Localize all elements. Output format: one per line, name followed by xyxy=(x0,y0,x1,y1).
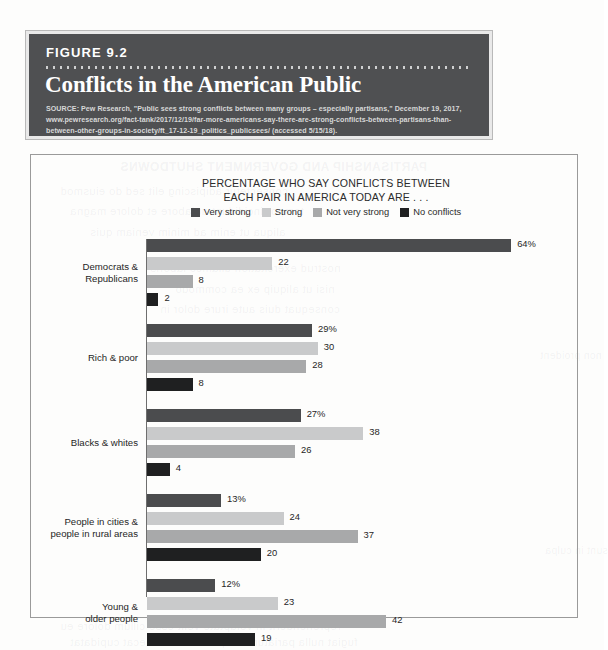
category-label-2: Blacks & whites xyxy=(8,437,138,449)
bar-value-label: 29% xyxy=(318,323,337,334)
bar[interactable] xyxy=(147,597,278,610)
figure-title: Conflicts in the American Public xyxy=(45,72,361,98)
category-label-4: Young &older people xyxy=(8,601,138,624)
bar-row[interactable]: 28 xyxy=(146,360,566,373)
bar[interactable] xyxy=(147,427,363,440)
bar-row[interactable]: 37 xyxy=(146,530,566,543)
bar-row[interactable]: 24 xyxy=(146,512,566,525)
legend-label: No conflicts xyxy=(413,207,461,217)
bar-row[interactable]: 8 xyxy=(146,378,566,391)
category-label-line: Democrats & xyxy=(8,261,138,273)
bar-row[interactable]: 2 xyxy=(146,293,566,306)
bar-group: 12%234219 xyxy=(146,579,566,650)
bar-group: 13%243720 xyxy=(146,494,566,566)
chart-title: PERCENTAGE WHO SAY CONFLICTS BETWEEN EAC… xyxy=(146,176,506,204)
figure-dotted-divider xyxy=(46,66,473,69)
bar-row[interactable]: 26 xyxy=(146,445,566,458)
category-label-3: People in cities &people in rural areas xyxy=(8,516,138,539)
bar[interactable] xyxy=(147,579,215,592)
bar-value-label: 12% xyxy=(221,578,240,589)
category-label-line: Young & xyxy=(8,601,138,613)
bar-row[interactable]: 64% xyxy=(146,239,566,252)
legend-swatch-icon xyxy=(400,208,409,217)
bar-value-label: 20 xyxy=(267,547,277,558)
bar[interactable] xyxy=(147,360,306,373)
bar-row[interactable]: 13% xyxy=(146,494,566,507)
bar-value-label: 2 xyxy=(164,292,169,303)
bar[interactable] xyxy=(147,445,295,458)
legend-item-not-very-strong[interactable]: Not very strong xyxy=(313,207,389,217)
bar-row[interactable]: 12% xyxy=(146,579,566,592)
chart-legend: Very strongStrongNot very strongNo confl… xyxy=(146,207,506,217)
bar-value-label: 4 xyxy=(176,462,181,473)
figure-number-label: FIGURE 9.2 xyxy=(46,45,128,60)
bar[interactable] xyxy=(147,378,193,391)
legend-label: Not very strong xyxy=(326,207,389,217)
category-label-1: Rich & poor xyxy=(8,352,138,364)
bar-row[interactable]: 27% xyxy=(146,409,566,422)
category-label-line: Blacks & whites xyxy=(8,437,138,449)
bar-row[interactable]: 19 xyxy=(146,633,566,646)
chart-title-line-2: EACH PAIR IN AMERICA TODAY ARE . . . xyxy=(146,190,506,204)
bar[interactable] xyxy=(147,494,221,507)
legend-swatch-icon xyxy=(262,208,271,217)
bar-row[interactable]: 30 xyxy=(146,342,566,355)
legend-item-very-strong[interactable]: Very strong xyxy=(191,207,251,217)
bar-value-label: 28 xyxy=(312,359,322,370)
bar[interactable] xyxy=(147,275,193,288)
bar-value-label: 37 xyxy=(364,529,374,540)
bar-value-label: 27% xyxy=(307,408,326,419)
bar-value-label: 64% xyxy=(517,238,536,249)
bar[interactable] xyxy=(147,548,261,561)
category-labels: Democrats &RepublicansRich & poorBlacks … xyxy=(0,239,138,597)
bar-value-label: 19 xyxy=(261,632,271,643)
bar-row[interactable]: 29% xyxy=(146,324,566,337)
figure-source-note: SOURCE: Pew Research, "Public sees stron… xyxy=(46,104,474,138)
bar-row[interactable]: 23 xyxy=(146,597,566,610)
bar[interactable] xyxy=(147,342,318,355)
bar-value-label: 42 xyxy=(392,614,402,625)
category-label-line: people in rural areas xyxy=(8,528,138,540)
bar-group: 29%30288 xyxy=(146,324,566,396)
bar[interactable] xyxy=(147,530,358,543)
category-label-line: older people xyxy=(8,613,138,625)
bar-row[interactable]: 42 xyxy=(146,615,566,628)
figure-header-box: FIGURE 9.2 Conflicts in the American Pub… xyxy=(26,31,492,139)
bar-value-label: 23 xyxy=(284,596,294,607)
category-label-0: Democrats &Republicans xyxy=(8,261,138,284)
bar-row[interactable]: 4 xyxy=(146,463,566,476)
bar-row[interactable]: 8 xyxy=(146,275,566,288)
bar-row[interactable]: 38 xyxy=(146,427,566,440)
legend-swatch-icon xyxy=(313,208,322,217)
bar-row[interactable]: 22 xyxy=(146,257,566,270)
bar-value-label: 8 xyxy=(199,377,204,388)
bar-group: 64%2282 xyxy=(146,239,566,311)
bar[interactable] xyxy=(147,257,272,270)
bar-group: 27%38264 xyxy=(146,409,566,481)
bar-value-label: 13% xyxy=(227,493,246,504)
bar[interactable] xyxy=(147,293,158,306)
bar-value-label: 30 xyxy=(324,341,334,352)
bar[interactable] xyxy=(147,463,170,476)
bar[interactable] xyxy=(147,633,255,646)
category-label-line: Republicans xyxy=(8,273,138,285)
legend-swatch-icon xyxy=(191,208,200,217)
legend-item-no-conflicts[interactable]: No conflicts xyxy=(400,207,461,217)
legend-label: Strong xyxy=(275,207,302,217)
bar-value-label: 24 xyxy=(290,511,300,522)
bar[interactable] xyxy=(147,615,386,628)
legend-item-strong[interactable]: Strong xyxy=(262,207,302,217)
chart-title-line-1: PERCENTAGE WHO SAY CONFLICTS BETWEEN xyxy=(146,176,506,190)
bar[interactable] xyxy=(147,409,301,422)
bar-value-label: 26 xyxy=(301,444,311,455)
bar-value-label: 38 xyxy=(369,426,379,437)
bar[interactable] xyxy=(147,324,312,337)
bar[interactable] xyxy=(147,239,511,252)
bar-row[interactable]: 20 xyxy=(146,548,566,561)
bar-value-label: 22 xyxy=(278,256,288,267)
category-label-line: People in cities & xyxy=(8,516,138,528)
legend-label: Very strong xyxy=(204,207,251,217)
bar[interactable] xyxy=(147,512,284,525)
plot-area: 64%228229%3028827%3826413%24372012%23421… xyxy=(146,239,566,597)
category-label-line: Rich & poor xyxy=(8,352,138,364)
